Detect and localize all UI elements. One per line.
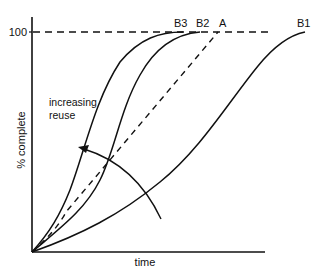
annotation-line2: reuse (49, 109, 75, 121)
y-axis-label: % complete (15, 111, 27, 168)
series-label-b3: B3 (174, 17, 187, 29)
curve-b2 (32, 32, 200, 252)
series-label-b1: B1 (297, 17, 310, 29)
y-tick-label-100: 100 (9, 26, 27, 38)
series-label-a: A (219, 17, 227, 29)
x-axis-label: time (135, 256, 156, 268)
series-label-b2: B2 (196, 17, 209, 29)
curve-b1 (32, 32, 305, 252)
annotation-line1: increasing (49, 96, 97, 108)
curve-a (32, 32, 218, 252)
chart: 100 % complete time increasing reuse B3 … (0, 0, 324, 274)
